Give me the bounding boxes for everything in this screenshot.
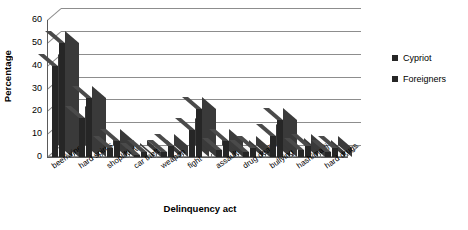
bar-cypriot-beer-wine [52,66,58,157]
legend-item[interactable]: Cypriot [392,53,446,63]
gridline [61,8,361,9]
bar-cypriot-fight [189,130,195,157]
y-axis-tick-label: 20 [20,106,42,115]
x-axis-tick-mark [211,154,212,158]
gridline-depth-connector [47,8,62,21]
bar-chart: Percentage 0102030405060beer/winehard sp… [0,0,468,230]
chart-legend: CypriotForeigners [392,53,446,95]
bar-cypriot-hard-spirits [79,118,85,157]
y-axis-tick-label: 40 [20,61,42,70]
gridline [61,77,361,78]
y-axis-tick-label: 10 [20,129,42,138]
y-axis-tick-label: 30 [20,84,42,93]
gridline [61,54,361,55]
y-axis-tick-label: 0 [20,152,42,161]
gridline [61,31,361,32]
plot-area: 0102030405060beer/winehard spiritsshopli… [0,0,468,230]
bar-foreigners-hard-spirits [86,98,92,157]
y-axis-tick-label: 60 [20,15,42,24]
bar-cypriot-shoplifting [107,148,113,157]
x-axis-title: Delinquency act [120,203,280,214]
bar-top-face [263,108,283,120]
y-axis-tick-label: 50 [20,38,42,47]
bar-foreigners-fight [196,109,202,157]
bar-cypriot-assault [216,150,222,157]
bar-cypriot-bullying [270,136,276,157]
bar-foreigners-beer-wine [59,43,65,157]
legend-swatch-icon [392,55,398,61]
y-axis-line [47,20,48,157]
legend-item-label: Cypriot [403,54,432,63]
bar-top-face [256,124,276,136]
bar-cypriot-hard-drugs [325,152,331,157]
gridline [61,99,361,100]
legend-item-label: Foreigners [403,75,446,84]
legend-item[interactable]: Foreigners [392,74,446,84]
bar-side-face [65,31,79,157]
bar-cypriot-drug-dealing [243,152,249,157]
legend-swatch-icon [392,76,398,82]
bar-top-face [175,118,195,130]
